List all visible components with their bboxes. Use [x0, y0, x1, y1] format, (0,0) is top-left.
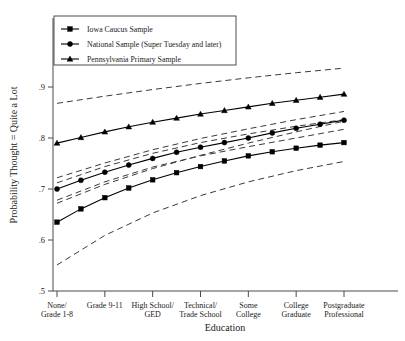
x-category-label: Grade 9-11: [87, 301, 123, 310]
x-category-label: Professional: [324, 310, 364, 319]
data-point-marker-square: [55, 220, 60, 225]
y-tick-label: .6: [39, 235, 45, 245]
x-category-label: College: [236, 310, 261, 319]
x-category-label: Postgraduate: [323, 301, 365, 310]
data-point-marker-circle: [78, 178, 83, 183]
data-point-marker-square: [270, 149, 275, 154]
confidence-band-lower: [57, 161, 344, 265]
data-point-marker-circle: [318, 122, 323, 127]
legend-marker-square: [68, 27, 73, 32]
data-point-marker-circle: [126, 163, 131, 168]
legend-item-label: National Sample (Super Tuesday and later…: [87, 40, 222, 49]
y-tick-label: .8: [39, 133, 45, 143]
data-point-marker-square: [222, 159, 227, 164]
x-category-label: High School/: [131, 301, 174, 310]
data-point-marker-square: [103, 195, 108, 200]
x-category-label: Grade 1-8: [41, 310, 73, 319]
y-tick-label: .9: [39, 82, 45, 92]
confidence-band-upper: [57, 68, 344, 103]
legend-marker-circle: [68, 42, 73, 47]
chart-figure: .5.6.7.8.9 None/Grade 1-8Grade 9-11High …: [0, 0, 405, 341]
y-tick-label: .5: [39, 286, 45, 296]
data-point-marker-circle: [246, 136, 251, 141]
data-point-marker-triangle: [341, 91, 347, 96]
x-category-label: None/: [47, 301, 67, 310]
data-point-marker-square: [246, 154, 251, 159]
data-point-marker-square: [79, 207, 84, 212]
y-tick-label: .7: [39, 184, 45, 194]
data-point-marker-circle: [150, 156, 155, 161]
legend-item-label: Iowa Caucus Sample: [87, 25, 153, 34]
y-axis-ticks: .5.6.7.8.9: [39, 82, 53, 296]
x-axis-ticks: [57, 291, 344, 297]
series-markers: [54, 91, 347, 224]
data-point-marker-circle: [55, 187, 60, 192]
chart-legend: Iowa Caucus SampleNational Sample (Super…: [54, 16, 236, 65]
x-category-label: College: [284, 301, 309, 310]
x-category-label: Trade School: [179, 310, 222, 319]
x-axis-category-labels: None/Grade 1-8Grade 9-11High School/GEDT…: [41, 301, 365, 319]
y-axis-title: Probability Thought = Quite a Lot: [8, 86, 19, 223]
data-point-marker-square: [174, 170, 179, 175]
education-probability-line-chart: .5.6.7.8.9 None/Grade 1-8Grade 9-11High …: [0, 0, 405, 341]
data-point-marker-square: [318, 143, 323, 148]
data-point-marker-circle: [102, 170, 107, 175]
data-point-marker-circle: [222, 140, 227, 145]
data-point-marker-square: [342, 140, 347, 145]
data-point-marker-square: [294, 146, 299, 151]
data-point-marker-circle: [294, 126, 299, 131]
data-point-marker-circle: [270, 130, 275, 135]
x-category-label: Technical/: [184, 301, 218, 310]
data-point-marker-circle: [342, 118, 347, 123]
x-category-label: GED: [144, 310, 161, 319]
series-line: [57, 143, 344, 223]
data-point-marker-square: [126, 186, 131, 191]
x-category-label: Some: [239, 301, 258, 310]
x-category-label: Graduate: [282, 310, 312, 319]
x-axis-title: Education: [205, 322, 246, 333]
data-point-marker-square: [198, 164, 203, 169]
data-point-marker-circle: [198, 145, 203, 150]
legend-item-label: Pennsylvania Primary Sample: [87, 55, 182, 64]
data-point-marker-square: [150, 178, 155, 183]
data-point-marker-circle: [174, 150, 179, 155]
